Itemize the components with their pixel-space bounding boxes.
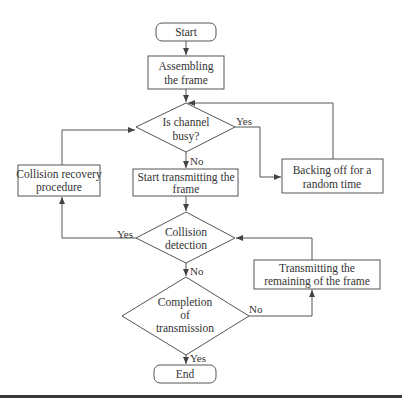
collision-no-label: No — [190, 265, 204, 277]
edge-remaining-return — [236, 238, 312, 260]
busy-no-label: No — [190, 155, 204, 167]
recovery-label-2: procedure — [36, 181, 82, 194]
remaining-label-2: remaining of the frame — [264, 275, 370, 288]
collision-yes-label: Yes — [117, 228, 133, 240]
assemble-label-1: Assembling — [159, 60, 214, 73]
completion-label-2: of — [180, 309, 190, 321]
recovery-label-1: Collision recovery — [16, 168, 102, 181]
completion-yes-label: Yes — [190, 352, 206, 364]
busy-label-1: Is channel — [163, 116, 210, 128]
backoff-label-1: Backing off for a — [293, 164, 372, 177]
collision-label-1: Collision — [165, 226, 207, 238]
start-label: Start — [175, 26, 198, 38]
backoff-label-2: random time — [303, 178, 361, 190]
busy-label-2: busy? — [173, 130, 200, 143]
start-transmit-label-2: frame — [173, 183, 200, 195]
edge-busy-yes — [235, 127, 281, 177]
remaining-label-1: Transmitting the — [279, 262, 355, 275]
bottom-rule — [0, 395, 402, 398]
edge-recovery-return — [62, 130, 135, 165]
completion-no-label: No — [249, 303, 263, 315]
completion-label-1: Completion — [158, 296, 213, 309]
collision-label-2: detection — [165, 239, 207, 251]
assemble-label-2: the frame — [164, 74, 208, 86]
flowchart: Start Assembling the frame Is channel bu… — [0, 0, 402, 407]
end-label: End — [176, 368, 195, 380]
completion-label-3: transmission — [156, 322, 214, 334]
busy-yes-label: Yes — [236, 115, 252, 127]
